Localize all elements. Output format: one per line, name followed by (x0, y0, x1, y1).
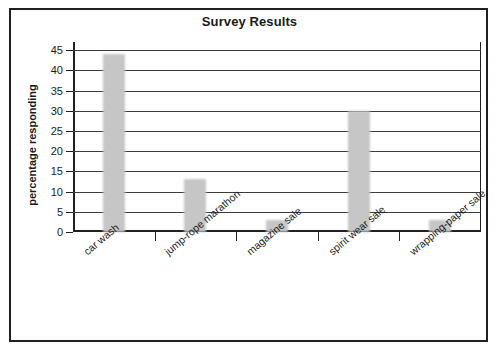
y-tick (66, 131, 73, 132)
gridline (73, 70, 481, 71)
y-axis-label: percentage responding (26, 50, 38, 240)
plot-area: 051015202530354045 (73, 42, 481, 232)
y-tick-label: 40 (51, 64, 63, 76)
y-tick (66, 151, 73, 152)
y-tick (66, 212, 73, 213)
y-tick-label: 10 (51, 186, 63, 198)
x-tick (318, 232, 319, 241)
gridline (73, 91, 481, 92)
y-tick-label: 35 (51, 85, 63, 97)
y-tick (66, 192, 73, 193)
y-tick (66, 232, 73, 233)
gridline (73, 192, 481, 193)
y-tick-label: 30 (51, 105, 63, 117)
y-tick (66, 111, 73, 112)
y-tick-label: 45 (51, 44, 63, 56)
x-tick (236, 232, 237, 241)
chart-figure: Survey Results percentage responding 051… (0, 0, 499, 353)
y-tick (66, 171, 73, 172)
y-tick-label: 20 (51, 145, 63, 157)
y-tick-label: 5 (57, 206, 63, 218)
chart-title: Survey Results (0, 14, 499, 29)
y-tick-label: 0 (57, 226, 63, 238)
gridline (73, 212, 481, 213)
x-tick (155, 232, 156, 241)
y-tick-label: 15 (51, 165, 63, 177)
gridline (73, 131, 481, 132)
gridline (73, 171, 481, 172)
y-tick (66, 70, 73, 71)
gridline (73, 151, 481, 152)
gridline (73, 50, 481, 51)
x-tick (399, 232, 400, 241)
y-tick (66, 91, 73, 92)
y-tick-label: 25 (51, 125, 63, 137)
gridline (73, 111, 481, 112)
bar (103, 54, 125, 232)
y-tick (66, 50, 73, 51)
